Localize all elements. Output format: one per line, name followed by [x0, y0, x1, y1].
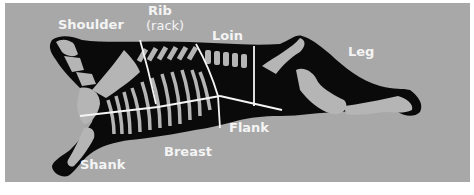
label-shank: Shank	[80, 158, 125, 171]
label-flank: Flank	[229, 121, 269, 134]
label-shoulder: Shoulder	[58, 18, 124, 31]
label-rib: Rib	[148, 4, 172, 17]
label-leg: Leg	[348, 45, 374, 58]
label-breast: Breast	[164, 145, 212, 158]
label-loin: Loin	[212, 29, 243, 42]
label-rack: (rack)	[146, 19, 184, 32]
